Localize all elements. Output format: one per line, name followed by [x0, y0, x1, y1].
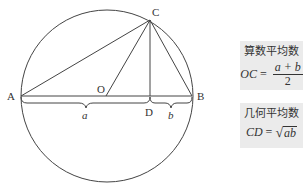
geometry-diagram: A B C O D a b	[0, 0, 303, 195]
equals-sign: =	[260, 67, 267, 82]
equals-sign: =	[266, 125, 273, 140]
fraction: a + b 2	[273, 61, 303, 88]
point-label-b: B	[197, 90, 204, 102]
formula-lhs-cd: CD	[246, 125, 263, 140]
point-label-a: A	[7, 90, 15, 102]
point-label-o: O	[97, 83, 105, 95]
brace-label-a: a	[82, 109, 88, 121]
brace-b	[150, 97, 192, 108]
arithmetic-mean-formula: OC = a + b 2	[240, 61, 303, 88]
brace-label-b: b	[168, 109, 174, 121]
geometric-mean-title: 几何平均数	[240, 107, 303, 121]
geometric-mean-formula: CD = √ ab	[240, 125, 303, 140]
brace-a	[21, 97, 150, 108]
fraction-numerator: a + b	[273, 61, 303, 75]
geometric-mean-box: 几何平均数 CD = √ ab	[240, 103, 303, 148]
point-label-d: D	[145, 106, 153, 118]
arithmetic-mean-title: 算数平均数	[240, 45, 303, 59]
radical-sign-icon: √	[275, 126, 283, 140]
point-label-c: C	[152, 6, 159, 18]
square-root: √ ab	[275, 126, 297, 140]
arithmetic-mean-box: 算数平均数 OC = a + b 2	[240, 41, 303, 90]
formula-lhs-oc: OC	[240, 67, 257, 82]
segment-bc	[150, 20, 192, 96]
radicand: ab	[283, 126, 297, 140]
segment-oc	[106, 20, 150, 96]
fraction-denominator: 2	[285, 75, 291, 88]
segment-ac	[21, 20, 150, 96]
